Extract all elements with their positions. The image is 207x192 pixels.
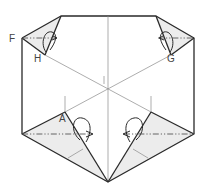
label-h: H [34, 53, 41, 64]
origami-diagram: F H G A [0, 0, 207, 192]
label-a: A [59, 113, 66, 124]
right-bottom-flap-shade [108, 112, 194, 182]
diagonal-crease-left [45, 55, 151, 112]
right-top-flap-shade [156, 16, 194, 55]
label-g: G [167, 53, 175, 64]
label-f: F [9, 33, 15, 44]
diagonal-crease-right [65, 55, 171, 112]
